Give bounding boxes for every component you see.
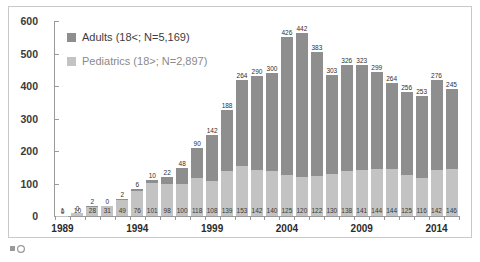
bar-value-label-adults: 299 (371, 64, 382, 71)
bar-value-label-adults: 10 (149, 172, 156, 179)
x-axis-tick-label: 1994 (126, 223, 148, 234)
bar-value-label-pediatrics: 146 (446, 207, 457, 214)
bar-value-label-adults: 0 (106, 198, 110, 205)
bar-value-label-pediatrics: 49 (119, 207, 126, 214)
x-axis-tick-label: 1989 (51, 223, 73, 234)
bar-value-label-pediatrics: 31 (104, 207, 111, 214)
bar-segment-adults[interactable] (416, 96, 428, 178)
bar-value-label-pediatrics: 144 (371, 207, 382, 214)
bar-group[interactable] (341, 65, 353, 216)
bar-group[interactable] (401, 92, 413, 216)
bar-group[interactable] (416, 96, 428, 216)
bar-value-label-pediatrics: 100 (177, 207, 188, 214)
x-axis-tick-mark (414, 216, 415, 220)
x-axis-tick-mark (354, 216, 355, 220)
bar-value-label-pediatrics: 138 (341, 207, 352, 214)
bar-value-label-adults: 22 (164, 169, 171, 176)
x-axis-tick-mark (160, 216, 161, 220)
bar-value-label-pediatrics: 76 (134, 207, 141, 214)
bar-group[interactable] (266, 73, 278, 216)
bar-value-label-adults: 323 (356, 57, 367, 64)
bar-group[interactable] (281, 37, 293, 216)
bar-segment-adults[interactable] (311, 52, 323, 176)
x-axis-tick-mark (190, 216, 191, 220)
bar-group[interactable] (356, 65, 368, 216)
bar-group[interactable] (296, 33, 308, 216)
bar-segment-adults[interactable] (161, 177, 173, 184)
bar-segment-adults[interactable] (401, 92, 413, 175)
bar-value-label-adults: 2 (121, 191, 125, 198)
bar-segment-adults[interactable] (236, 80, 248, 166)
y-axis-tick-label: 500 (6, 48, 38, 60)
x-axis-tick-mark (70, 216, 71, 220)
x-axis-tick-mark (429, 216, 430, 220)
legend-swatch-icon (67, 33, 76, 42)
bar-segment-adults[interactable] (146, 180, 158, 183)
bar-value-label-adults: 383 (311, 44, 322, 51)
bar-group[interactable] (251, 76, 263, 216)
bar-segment-adults[interactable] (386, 83, 398, 169)
bar-segment-adults[interactable] (431, 80, 443, 170)
bar-value-label-adults: 256 (401, 84, 412, 91)
bar-segment-adults[interactable] (341, 65, 353, 171)
bar-segment-adults[interactable] (326, 75, 338, 173)
bar-value-label-pediatrics: 139 (222, 207, 233, 214)
bar-segment-adults[interactable] (251, 76, 263, 170)
x-axis-tick-label: 2009 (351, 223, 373, 234)
bar-value-label-adults: 90 (194, 140, 201, 147)
y-axis-tick-label: 100 (6, 178, 38, 190)
bar-value-label-pediatrics: 28 (89, 207, 96, 214)
x-axis-tick-mark (324, 216, 325, 220)
bar-value-label-adults: 188 (222, 102, 233, 109)
bar-value-label-pediatrics: 142 (431, 207, 442, 214)
bar-segment-adults[interactable] (116, 199, 128, 200)
bar-value-label-pediatrics: 125 (281, 207, 292, 214)
x-axis-tick-label: 2004 (276, 223, 298, 234)
bar-group[interactable] (446, 89, 458, 216)
bar-segment-adults[interactable] (131, 189, 143, 191)
x-axis-tick-mark (399, 216, 400, 220)
x-axis-tick-label: 2014 (425, 223, 447, 234)
bar-group[interactable] (371, 72, 383, 216)
bar-segment-adults[interactable] (206, 135, 218, 181)
bar-group[interactable] (311, 52, 323, 216)
legend-item[interactable]: Pediatrics (18>; N=2,897) (67, 55, 207, 67)
bar-segment-adults[interactable] (356, 65, 368, 170)
bar-group[interactable] (236, 80, 248, 216)
x-axis-tick-mark (294, 216, 295, 220)
bar-value-label-pediatrics: 144 (386, 207, 397, 214)
bar-group[interactable] (386, 83, 398, 216)
bar-group[interactable] (221, 110, 233, 216)
x-axis-tick-mark (220, 216, 221, 220)
bar-value-label-pediatrics: 140 (267, 207, 278, 214)
bar-value-label-adults: 290 (252, 68, 263, 75)
bar-segment-adults[interactable] (266, 73, 278, 171)
bar-value-label-adults: 264 (386, 75, 397, 82)
x-axis-tick-mark (264, 216, 265, 220)
bar-value-label-adults: 264 (237, 72, 248, 79)
bar-group[interactable] (326, 75, 338, 216)
bar-segment-adults[interactable] (221, 110, 233, 171)
x-axis-tick-mark (55, 216, 56, 220)
y-axis-tick-label: 200 (6, 145, 38, 157)
chart-container: 0100200300400500600 19891994199920042009… (8, 6, 472, 238)
legend-swatch-icon (67, 57, 76, 66)
legend-item[interactable]: Adults (18<; N=5,169) (67, 31, 207, 43)
bar-segment-adults[interactable] (371, 72, 383, 169)
x-axis-tick-mark (309, 216, 310, 220)
bar-group[interactable] (191, 148, 203, 216)
bar-group[interactable] (431, 80, 443, 216)
bar-value-label-adults: 426 (281, 29, 292, 36)
bar-segment-adults[interactable] (191, 148, 203, 177)
bar-value-label-adults: 245 (446, 81, 457, 88)
bar-segment-adults[interactable] (176, 168, 188, 184)
bar-value-label-adults: 0 (76, 205, 80, 212)
bar-value-label-pediatrics: 118 (192, 207, 202, 214)
bar-segment-adults[interactable] (296, 33, 308, 177)
bar-segment-adults[interactable] (281, 37, 293, 175)
bar-group[interactable] (206, 135, 218, 216)
bar-segment-adults[interactable] (446, 89, 458, 169)
x-axis-tick-mark (369, 216, 370, 220)
bar-value-label-adults: 2 (91, 198, 95, 205)
x-axis-tick-mark (235, 216, 236, 220)
